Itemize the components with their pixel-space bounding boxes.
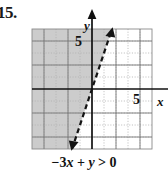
caption-x-variable: x [66,155,73,170]
caption-relation-operator: > [98,155,106,170]
caption-y-variable: y [88,155,94,170]
y-axis-tick-label-5: 5 [75,35,82,49]
graph-canvas [32,29,152,149]
linear-inequality-figure: 15. [0,0,168,178]
plot-area [32,29,152,149]
x-axis-label: x [157,95,164,108]
caption-plus-operator: + [77,155,85,170]
caption-right-side: 0 [110,155,117,170]
problem-number-label: 15. [0,4,17,21]
y-axis-label: y [84,19,90,32]
x-axis-tick-label-5: 5 [133,93,140,107]
inequality-caption: −3x + y > 0 [0,156,168,170]
caption-coefficient-term: −3 [51,155,66,170]
